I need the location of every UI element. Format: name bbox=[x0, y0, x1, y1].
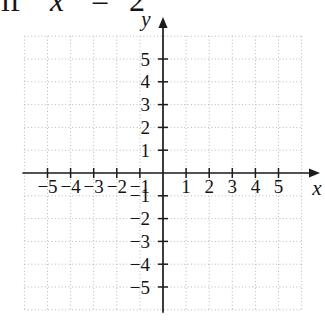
x-tick-label: −3 bbox=[84, 176, 104, 197]
equation-fragment-2: 2 bbox=[129, 0, 145, 11]
x-axis-label: x bbox=[311, 176, 322, 200]
y-tick-label: −5 bbox=[130, 277, 150, 298]
x-tick-label: 1 bbox=[181, 176, 191, 197]
y-tick-label: 1 bbox=[141, 140, 151, 161]
y-tick-label: 3 bbox=[141, 94, 151, 115]
y-tick-label: 5 bbox=[141, 49, 151, 70]
equation-fragment-equals: = bbox=[91, 0, 109, 11]
y-tick-label: −4 bbox=[130, 254, 151, 275]
coordinate-plane: −5−4−3−2−112345−5−4−3−2−112345xy bbox=[0, 0, 325, 333]
x-tick-label: 5 bbox=[274, 176, 284, 197]
y-tick-label: 2 bbox=[141, 117, 151, 138]
y-tick-label: 4 bbox=[141, 71, 151, 92]
equation-fragment-if: if bbox=[1, 0, 21, 11]
page: if x = 2 −5−4−3−2−112345−5−4−3−2−112345x… bbox=[0, 0, 325, 333]
y-axis-arrow-icon bbox=[158, 17, 167, 28]
x-tick-label: −4 bbox=[60, 176, 81, 197]
x-tick-label: 2 bbox=[204, 176, 214, 197]
y-tick-label: −2 bbox=[130, 208, 150, 229]
y-tick-label: −3 bbox=[130, 231, 150, 252]
x-tick-label: 3 bbox=[228, 176, 238, 197]
x-tick-label: −2 bbox=[107, 176, 127, 197]
y-tick-label: −1 bbox=[130, 185, 150, 206]
equation-fragment-x: x bbox=[50, 0, 64, 11]
x-tick-label: 4 bbox=[251, 176, 261, 197]
cropped-equation-text: if x = 2 bbox=[0, 0, 220, 11]
x-tick-label: −5 bbox=[37, 176, 57, 197]
